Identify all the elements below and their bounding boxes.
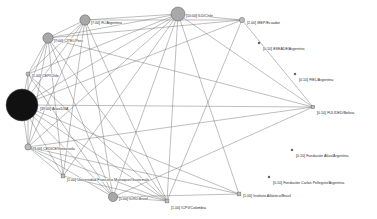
- network-node[interactable]: [61, 174, 65, 178]
- nodes-layer: [6, 7, 315, 203]
- network-node[interactable]: [258, 42, 260, 44]
- network-edge: [178, 14, 239, 194]
- network-edge: [28, 147, 63, 176]
- network-node-label: [0.10] Fundación Atlas/Argentina: [296, 154, 349, 158]
- network-node[interactable]: [311, 105, 314, 108]
- network-edge: [178, 14, 313, 107]
- network-node[interactable]: [171, 7, 185, 21]
- network-node-label: [0.10] FULIDED/Bolivia: [317, 111, 354, 115]
- network-node[interactable]: [294, 73, 296, 75]
- network-diagram: [39.00] Atlas/USA[10.00] ILD/Chile[7.00]…: [0, 0, 377, 219]
- network-node-label: [1.00] ICPV/Colombia: [171, 206, 206, 210]
- network-node-label: [0.10] ESEADE/Argentina: [263, 47, 304, 51]
- network-edge: [28, 38, 48, 74]
- network-node[interactable]: [239, 17, 244, 22]
- network-edge: [48, 38, 113, 197]
- network-node-label: [1.00] Universidad Francisco Marroquin/G…: [67, 178, 149, 182]
- network-node-label: [7.00] CITEL/Perú: [54, 39, 83, 43]
- network-node[interactable]: [268, 176, 270, 178]
- network-edge: [28, 147, 113, 197]
- network-node-label: [5.00] IL/RJ-Brasil: [119, 197, 148, 201]
- labels-layer: [39.00] Atlas/USA[10.00] ILD/Chile[7.00]…: [32, 14, 354, 211]
- network-node-label: [1.00] Instituto Atlántico/Brasil: [243, 194, 291, 198]
- network-edge: [85, 20, 113, 197]
- network-edge: [85, 14, 178, 20]
- network-node[interactable]: [291, 149, 293, 151]
- network-edge: [167, 14, 178, 201]
- network-node[interactable]: [237, 192, 241, 196]
- network-edge: [242, 20, 313, 107]
- network-edge: [28, 20, 85, 74]
- network-node[interactable]: [80, 15, 90, 25]
- network-node[interactable]: [25, 144, 31, 150]
- network-edge: [22, 105, 113, 197]
- network-edge: [22, 14, 178, 105]
- network-node[interactable]: [108, 192, 117, 201]
- network-edge: [22, 20, 242, 105]
- network-node-label: [7.00] FL/Argentina: [91, 21, 122, 25]
- network-node[interactable]: [43, 33, 53, 43]
- network-node-label: [0.10] FIEL/Argentina: [299, 78, 333, 82]
- network-node-label: [2.00] IEEP/Ecuador: [247, 21, 281, 25]
- network-edge: [63, 20, 85, 176]
- network-node-label: [39.00] Atlas/USA: [40, 107, 69, 111]
- network-node-label: [0.10] Fundación Carlos Pellegrini/Argen…: [273, 181, 344, 185]
- network-node[interactable]: [26, 72, 30, 76]
- network-edge: [48, 20, 242, 38]
- network-node-label: [10.00] ILD/Chile: [186, 14, 213, 18]
- network-edge: [167, 20, 242, 201]
- network-node[interactable]: [165, 199, 169, 203]
- network-canvas: [39.00] Atlas/USA[10.00] ILD/Chile[7.00]…: [0, 0, 377, 219]
- network-node-label: [1.00] CEP/Chile: [32, 74, 59, 78]
- network-node-label: [3.00] CEDICE/Venezuela: [33, 147, 75, 151]
- network-node[interactable]: [6, 89, 38, 121]
- network-edge: [48, 14, 178, 38]
